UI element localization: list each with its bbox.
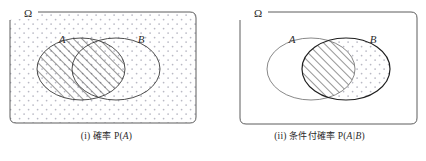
panel-ii-caption-math-prefix: P(: [338, 131, 347, 141]
panel-ii-caption-math-suffix: ): [361, 131, 364, 141]
panel-i-caption: (i) 確率 P(A): [0, 130, 213, 143]
panel-probability-a: Ω A B (i) 確率 P(A): [0, 0, 213, 161]
set-b-label-i: B: [138, 33, 145, 45]
panel-ii-caption-cjk: 条件付確率: [289, 131, 335, 141]
set-b-label-ii: B: [370, 33, 377, 45]
panel-i-index: (i): [81, 131, 91, 141]
omega-label-i: Ω: [24, 7, 32, 19]
set-a-label-ii: A: [288, 33, 296, 45]
panel-ii-caption-math-arg: A|B: [347, 131, 362, 141]
panel-i-diagram: Ω A B: [0, 0, 213, 130]
panel-ii-diagram: Ω A B: [213, 0, 426, 130]
panel-ii-index: (ii): [274, 131, 286, 141]
panel-conditional-probability-a-given-b: Ω A B (ii) 条件付確率 P(A|B): [213, 0, 426, 161]
panel-i-caption-math-prefix: P(: [114, 131, 123, 141]
set-a-label-i: A: [58, 33, 66, 45]
panel-i-caption-math-suffix: ): [129, 131, 132, 141]
omega-label-ii: Ω: [254, 7, 262, 19]
panel-i-caption-cjk: 確率: [93, 131, 111, 141]
figure-venn-pair: Ω A B (i) 確率 P(A): [0, 0, 426, 161]
panel-ii-caption: (ii) 条件付確率 P(A|B): [213, 130, 426, 143]
